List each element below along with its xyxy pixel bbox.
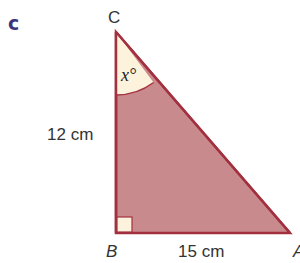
vertex-label-b: B — [106, 243, 117, 260]
right-triangle-diagram — [0, 0, 300, 263]
right-angle-marker — [117, 217, 132, 232]
side-label-bc: 12 cm — [47, 126, 93, 143]
vertex-label-c: C — [108, 9, 120, 26]
vertex-label-a: A — [293, 243, 300, 260]
angle-label-x: x° — [121, 66, 136, 84]
side-label-ab: 15 cm — [178, 243, 224, 260]
